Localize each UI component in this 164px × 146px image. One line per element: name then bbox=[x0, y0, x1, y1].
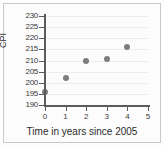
y-axis-tick-label: 225 bbox=[16, 23, 38, 31]
gridline bbox=[45, 94, 148, 95]
gridline bbox=[45, 61, 148, 62]
gridline bbox=[45, 16, 148, 17]
x-axis-tick bbox=[148, 107, 149, 111]
x-axis-tick bbox=[127, 107, 128, 111]
y-axis-tick-label: 210 bbox=[16, 57, 38, 65]
y-axis-tick bbox=[39, 61, 44, 62]
x-axis-line bbox=[44, 105, 150, 107]
x-axis-tick-label: 2 bbox=[79, 112, 93, 121]
gridline bbox=[45, 49, 148, 50]
x-axis-tick-label: 3 bbox=[100, 112, 114, 121]
x-axis-tick bbox=[107, 107, 108, 111]
data-point bbox=[83, 58, 89, 64]
y-axis-tick bbox=[39, 83, 44, 84]
x-axis-tick bbox=[66, 107, 67, 111]
y-axis-tick-label: 200 bbox=[16, 79, 38, 87]
y-axis-title: CPI bbox=[0, 33, 8, 48]
y-axis-line bbox=[44, 14, 46, 107]
x-axis-tick-label: 0 bbox=[38, 112, 52, 121]
x-axis-tick-label: 1 bbox=[59, 112, 73, 121]
y-axis-tick bbox=[39, 72, 44, 73]
y-axis-tick bbox=[39, 16, 44, 17]
data-point bbox=[63, 75, 69, 81]
gridline bbox=[45, 83, 148, 84]
y-axis-tick bbox=[39, 49, 44, 50]
gridline bbox=[45, 72, 148, 73]
x-axis-tick-label: 4 bbox=[120, 112, 134, 121]
x-axis-title: Time in years since 2005 bbox=[0, 126, 164, 137]
x-axis-tick bbox=[45, 107, 46, 111]
x-axis-tick bbox=[86, 107, 87, 111]
y-axis-tick-label: 205 bbox=[16, 68, 38, 76]
y-axis-tick bbox=[39, 105, 44, 106]
gridline bbox=[45, 27, 148, 28]
y-axis-tick bbox=[39, 94, 44, 95]
y-axis-tick bbox=[39, 27, 44, 28]
gridline bbox=[45, 38, 148, 39]
y-axis-tick-label: 215 bbox=[16, 45, 38, 53]
chart-figure: 190195200205210215220225230 012345 CPI T… bbox=[0, 0, 164, 146]
y-axis-tick-label: 195 bbox=[16, 90, 38, 98]
y-axis-tick-label: 230 bbox=[16, 12, 38, 20]
plot-area bbox=[45, 16, 148, 105]
y-axis-tick-label: 220 bbox=[16, 34, 38, 42]
x-axis-tick-label: 5 bbox=[141, 112, 155, 121]
y-axis-tick bbox=[39, 38, 44, 39]
y-axis-tick-label: 190 bbox=[16, 101, 38, 109]
